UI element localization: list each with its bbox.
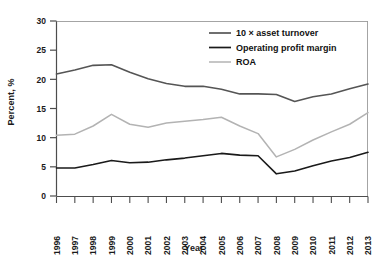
- legend: 10 × asset turnoverOperating profit marg…: [209, 28, 337, 67]
- y-tick-label: 20: [37, 75, 47, 85]
- y-tick-label: 0: [41, 191, 46, 201]
- legend-label: 10 × asset turnover: [236, 28, 319, 38]
- series-line: [57, 113, 369, 157]
- y-tick-label: 25: [37, 45, 47, 55]
- y-axis-title: Percent, %: [6, 67, 16, 137]
- chart-container: 051015202530 199619971998199920002001200…: [0, 0, 388, 259]
- line-chart: 051015202530 199619971998199920002001200…: [0, 0, 388, 259]
- y-tick-label: 15: [37, 104, 47, 114]
- y-axis-ticks: 051015202530: [37, 16, 57, 201]
- y-tick-label: 30: [37, 16, 47, 26]
- legend-label: ROA: [236, 57, 257, 67]
- y-tick-label: 10: [37, 133, 47, 143]
- data-series-group: [57, 65, 369, 174]
- y-tick-label: 5: [41, 162, 46, 172]
- x-axis-title: Year: [0, 243, 388, 253]
- series-line: [57, 152, 369, 174]
- series-line: [57, 65, 369, 102]
- legend-label: Operating profit margin: [236, 43, 337, 53]
